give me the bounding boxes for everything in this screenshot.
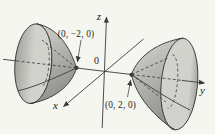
y-axis-label: y — [199, 84, 205, 96]
left-vertex-label: (0, −2, 0) — [58, 29, 95, 40]
right-vertex-dot — [129, 73, 133, 77]
figure-canvas: z y x 0 (0, −2, 0) (0, 2, 0) — [0, 0, 215, 134]
right-vertex-label: (0, 2, 0) — [105, 100, 136, 111]
hyperboloid-figure: z y x 0 (0, −2, 0) (0, 2, 0) — [0, 0, 215, 134]
z-axis-label: z — [96, 10, 102, 22]
origin-label: 0 — [94, 55, 99, 66]
left-vertex-dot — [74, 66, 78, 70]
x-axis-label: x — [52, 99, 58, 111]
